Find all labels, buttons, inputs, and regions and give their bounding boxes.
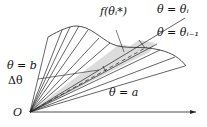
label-theta-i: θ = θᵢ xyxy=(157,4,189,15)
label-delta-theta: Δθ xyxy=(8,75,23,86)
x-axis-arrow xyxy=(190,110,196,114)
polar-area-diagram: f(θᵢ*) θ = θᵢ θ = θᵢ₋₁ θ = b Δθ θ = a O xyxy=(0,0,207,127)
label-f-theta: f(θᵢ*) xyxy=(100,6,127,17)
label-theta-i-minus-1: θ = θᵢ₋₁ xyxy=(157,27,199,38)
label-theta-b: θ = b xyxy=(7,60,37,71)
label-origin: O xyxy=(13,107,22,118)
label-theta-a: θ = a xyxy=(109,87,138,98)
